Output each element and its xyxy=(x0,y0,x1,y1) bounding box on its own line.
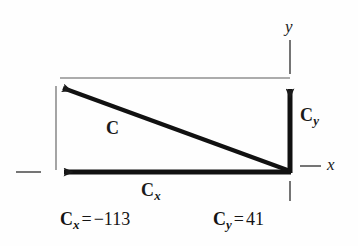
equation-cy-operator: = xyxy=(234,209,244,229)
x-axis-label: x xyxy=(327,156,335,173)
vector-label-cy-subscript: y xyxy=(313,113,319,128)
equation-cx-symbol: C xyxy=(60,209,73,229)
vector-label-cx-symbol: C xyxy=(141,180,154,200)
equation-cx: Cx=−113 xyxy=(60,210,130,231)
vector-label-cx-subscript: x xyxy=(154,188,161,203)
axis-lines xyxy=(16,40,321,201)
vector-label-cx: Cx xyxy=(141,181,161,202)
vector-diagram-figure: y x C Cx Cy Cx=−113 Cy=41 xyxy=(0,0,358,246)
vector-label-c-symbol: C xyxy=(106,118,119,138)
vector-label-c: C xyxy=(106,119,119,137)
vector-arrows xyxy=(63,88,291,173)
y-axis-label: y xyxy=(285,18,293,35)
equation-cx-subscript: x xyxy=(73,217,80,232)
equation-cx-value: −113 xyxy=(94,209,130,229)
vector-label-cy-symbol: C xyxy=(300,105,313,125)
equation-cx-operator: = xyxy=(82,209,92,229)
equation-cy: Cy=41 xyxy=(213,210,264,231)
equation-cy-value: 41 xyxy=(246,209,264,229)
vector-label-cy: Cy xyxy=(300,106,319,127)
equation-cy-subscript: y xyxy=(226,217,232,232)
vector-c-resultant xyxy=(63,88,290,171)
equation-cy-symbol: C xyxy=(213,209,226,229)
